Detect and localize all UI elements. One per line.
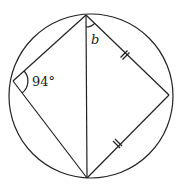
angle-arc-top — [86, 23, 95, 27]
cyclic-quadrilateral-diagram: 94° b — [0, 0, 178, 187]
side-left-bottom — [13, 81, 87, 178]
angle-arc-left — [22, 71, 28, 93]
angle-label-b: b — [91, 32, 99, 47]
side-right-bottom — [87, 95, 169, 178]
angle-label-94: 94° — [32, 74, 55, 89]
diagonal-top-bottom — [86, 15, 87, 178]
